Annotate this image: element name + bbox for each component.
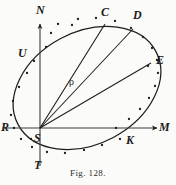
point-label-R: R [1, 121, 9, 133]
point-label-U: U [18, 47, 27, 59]
curve-dot-markers [10, 17, 159, 154]
point-label-K: K [126, 134, 134, 146]
point-label-E: E [156, 54, 164, 66]
point-label-N: N [36, 4, 45, 16]
figure-caption: Fig. 128. [0, 168, 176, 178]
figure-128: N C D U E R S K M T ρ Fig. 128. [0, 0, 176, 185]
radius-vector-SE [40, 63, 151, 128]
rho-label: ρ [69, 77, 74, 87]
point-label-M: M [159, 121, 170, 133]
radius-vector-SD [40, 29, 133, 128]
figure-drawing [0, 0, 176, 185]
ellipse-curve [0, 2, 176, 174]
point-label-C: C [101, 6, 109, 18]
point-label-D: D [133, 9, 142, 21]
radius-vectors [40, 24, 151, 128]
point-label-S: S [34, 132, 41, 144]
